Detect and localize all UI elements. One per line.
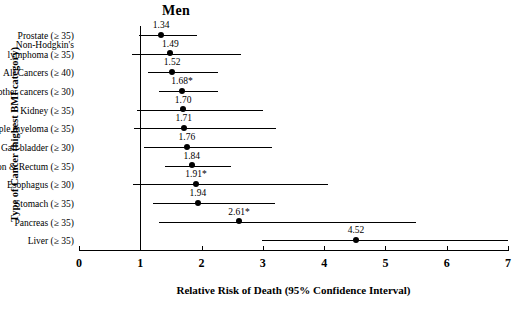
confidence-interval-line: [159, 222, 416, 223]
data-point-value-label: 4.52: [348, 225, 365, 235]
category-label: All Cancers (≥ 40): [0, 68, 74, 79]
plot-area: Prostate (≥ 35)Non-Hodgkin'slymphoma (≥ …: [79, 26, 508, 250]
x-axis-tick: [508, 246, 509, 251]
data-row: 1.68*: [79, 83, 508, 101]
category-label: Kidney (≥ 35): [0, 106, 74, 117]
data-row: 2.61*: [79, 214, 508, 232]
x-axis-tick: [140, 246, 141, 251]
data-point-marker: [236, 218, 242, 224]
data-point-value-label: 1.68*: [171, 76, 192, 86]
data-row: 1.34: [79, 27, 508, 45]
data-point-marker: [353, 237, 359, 243]
data-point-marker: [181, 125, 187, 131]
category-label: Stomach (≥ 35): [0, 199, 74, 210]
data-point-value-label: 1.49: [162, 39, 179, 49]
data-row: 1.71: [79, 120, 508, 138]
data-point-marker: [193, 181, 199, 187]
confidence-interval-line: [144, 147, 272, 148]
x-axis-tick-label: 1: [137, 256, 143, 271]
data-point-value-label: 1.76: [179, 132, 196, 142]
data-row: 4.52: [79, 232, 508, 250]
confidence-interval-line: [134, 128, 277, 129]
forest-plot-figure: Men Type of Cancer (highest BMI category…: [0, 0, 530, 311]
data-row: 1.84: [79, 158, 508, 176]
confidence-interval-line: [159, 91, 218, 92]
category-label: Esophagus (≥ 30): [0, 180, 74, 191]
confidence-interval-line: [153, 203, 275, 204]
data-point-marker: [195, 200, 201, 206]
data-point-marker: [158, 32, 164, 38]
data-point-value-label: 1.91*: [185, 169, 206, 179]
data-row: 1.70: [79, 102, 508, 120]
data-point-value-label: 1.34: [153, 20, 170, 30]
category-labels: Prostate (≥ 35)Non-Hodgkin'slymphoma (≥ …: [0, 26, 74, 250]
data-point-value-label: 1.71: [175, 113, 192, 123]
x-axis-tick-label: 7: [505, 256, 511, 271]
x-axis-tick-label: 4: [321, 256, 327, 271]
data-point-value-label: 2.61*: [228, 207, 249, 217]
data-point-value-label: 1.70: [175, 95, 192, 105]
confidence-interval-line: [148, 72, 217, 73]
x-axis-tick-label: 3: [260, 256, 266, 271]
data-row: 1.94: [79, 195, 508, 213]
x-axis: 01234567: [79, 250, 508, 251]
x-axis-tick: [263, 246, 264, 251]
data-point-marker: [184, 144, 190, 150]
data-row: 1.76: [79, 139, 508, 157]
data-row: 1.49: [79, 46, 508, 64]
x-axis-tick-label: 5: [382, 256, 388, 271]
category-label: Gall bladder (≥ 30): [0, 143, 74, 154]
x-axis-tick: [385, 246, 386, 251]
x-axis-tick-label: 2: [199, 256, 205, 271]
data-point-value-label: 1.84: [183, 151, 200, 161]
confidence-interval-line: [132, 54, 241, 55]
data-point-marker: [167, 50, 173, 56]
category-label: Pancreas (≥ 35): [0, 218, 74, 229]
confidence-interval-line: [139, 35, 197, 36]
data-point-marker: [189, 162, 195, 168]
data-point-marker: [179, 88, 185, 94]
x-axis-tick: [79, 246, 80, 251]
x-axis-tick: [202, 246, 203, 251]
data-point-value-label: 1.52: [164, 57, 181, 67]
x-axis-tick: [447, 246, 448, 251]
data-row: 1.91*: [79, 176, 508, 194]
category-label: Non-Hodgkin'slymphoma (≥ 35): [0, 40, 74, 61]
data-point-value-label: 1.94: [190, 188, 207, 198]
x-axis-tick-label: 6: [444, 256, 450, 271]
chart-title: Men: [0, 3, 352, 19]
x-axis-tick-label: 0: [76, 256, 82, 271]
data-row: 1.52: [79, 64, 508, 82]
confidence-interval-line: [137, 110, 263, 111]
x-axis-tick: [324, 246, 325, 251]
category-label: Multiple myeloma (≥ 35): [0, 124, 74, 135]
confidence-interval-line: [262, 240, 508, 241]
data-point-marker: [169, 69, 175, 75]
confidence-interval-line: [165, 166, 231, 167]
category-label: All other cancers (≥ 30): [0, 87, 74, 98]
x-axis-title: Relative Risk of Death (95% Confidence I…: [79, 284, 508, 296]
data-point-marker: [180, 106, 186, 112]
confidence-interval-line: [133, 184, 329, 185]
category-label: Liver (≥ 35): [0, 236, 74, 247]
category-label: Colon & Rectum (≥ 35): [0, 162, 74, 173]
